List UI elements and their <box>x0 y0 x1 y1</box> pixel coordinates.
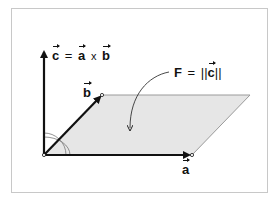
area-formula: F = ||c|| <box>174 66 222 79</box>
vector-a-text: a <box>182 163 189 176</box>
cross-product-diagram <box>0 0 278 207</box>
vector-b-symbol: b <box>102 49 110 62</box>
parallelogram-area <box>44 95 250 155</box>
cross-operator: x <box>89 50 99 62</box>
cross-product-formula: c = a x b <box>52 49 110 62</box>
origin-point <box>42 153 45 156</box>
area-symbol: F <box>174 65 182 80</box>
vector-a-symbol: a <box>78 49 85 62</box>
norm-close: || <box>215 65 222 80</box>
equals-sign: = <box>63 48 75 63</box>
vector-b-text: b <box>83 86 91 99</box>
vector-c-label: c <box>52 49 59 62</box>
vector-a-endpoint <box>190 153 193 156</box>
norm-open: || <box>201 65 208 80</box>
vector-a-tag: a <box>182 163 189 176</box>
vector-c-symbol: c <box>208 66 215 79</box>
vector-b-endpoint <box>100 93 103 96</box>
vector-b-tag: b <box>83 86 91 99</box>
equals-sign: = <box>186 65 198 80</box>
